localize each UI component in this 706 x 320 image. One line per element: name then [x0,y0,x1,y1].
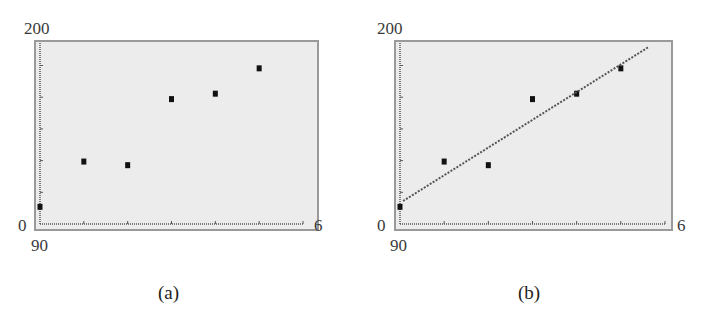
plot-b [353,0,706,320]
plot-frame [35,41,318,230]
data-point [125,162,130,168]
x-max-label: 6 [314,217,323,234]
data-point [81,159,86,165]
y-max-label: 200 [24,20,50,37]
caption-a: (a) [158,283,179,302]
data-point [530,96,535,102]
plot-a [0,0,353,320]
data-point [442,159,447,165]
panel-b: 200 0 6 90 (b) [353,0,706,320]
data-point [257,65,262,71]
y-min-label: 0 [18,217,27,234]
data-point [169,96,174,102]
y-min-label: 0 [377,217,386,234]
x-min-label: 90 [390,237,407,254]
data-point [38,204,43,210]
plot-frame [395,41,672,230]
y-max-label: 200 [377,20,403,37]
panel-a: 200 0 6 90 (a) [0,0,353,320]
data-point [213,91,218,97]
data-point [398,204,403,210]
x-max-label: 6 [677,217,686,234]
data-point [618,65,623,71]
caption-b: (b) [518,283,540,302]
data-point [486,162,491,168]
x-min-label: 90 [31,237,48,254]
